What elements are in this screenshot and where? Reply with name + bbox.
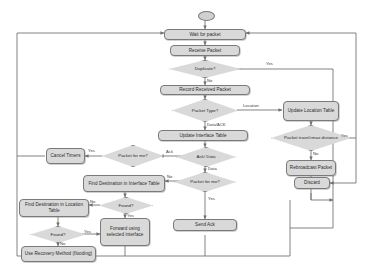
node-discard[interactable]: Discard bbox=[294, 177, 330, 189]
flowchart-canvas: Wait for packet Receive Packet Record Re… bbox=[0, 0, 372, 275]
edge-label-for-me-2-yes: Yes bbox=[208, 196, 215, 201]
decision-duplicate-label: Duplicate? bbox=[169, 60, 241, 78]
decision-packet-for-me-1[interactable]: Packet for me? bbox=[102, 145, 164, 167]
node-update-location-table[interactable]: Update Location Table bbox=[283, 101, 339, 121]
node-find-destination-interface-table[interactable]: Find Destination in Interface Table bbox=[83, 175, 165, 192]
edge-label-for-me-2-no: No bbox=[167, 174, 172, 179]
decision-packet-for-me-2-label: Packet for me? bbox=[174, 172, 236, 192]
edge-label-duplicate-no: No bbox=[207, 78, 212, 83]
decision-packet-for-me-1-label: Packet for me? bbox=[102, 145, 164, 167]
decision-duplicate[interactable]: Duplicate? bbox=[169, 60, 241, 78]
edge-label-duplicate-yes: Yes bbox=[266, 61, 273, 66]
decision-found-2-label: Found? bbox=[30, 226, 86, 243]
edge-label-type-data-ack: Data/ACK bbox=[207, 122, 226, 127]
decision-found-1-label: Found? bbox=[99, 197, 153, 214]
node-find-destination-location-table[interactable]: Find Destination in Location Table bbox=[19, 199, 89, 217]
decision-found-1[interactable]: Found? bbox=[99, 197, 153, 214]
edge-label-ack: Ack bbox=[166, 149, 173, 154]
edge-label-travel-yes: Yes bbox=[341, 133, 348, 138]
node-use-recovery-method[interactable]: Use Recovery Method (flooding) bbox=[21, 246, 96, 262]
decision-packet-travel-max-distance[interactable]: Packet travel>max distance bbox=[271, 125, 351, 151]
edge-label-found-1-yes: Yes bbox=[127, 213, 134, 218]
decision-packet-for-me-2[interactable]: Packet for me? bbox=[174, 172, 236, 192]
edge-label-found-2-yes: Yes bbox=[84, 229, 91, 234]
decision-ack-data[interactable]: Ack/ Data bbox=[176, 147, 236, 167]
decision-found-2[interactable]: Found? bbox=[30, 226, 86, 243]
decision-ack-data-label: Ack/ Data bbox=[176, 147, 236, 167]
node-update-interface-table[interactable]: Update Interface Table bbox=[158, 130, 248, 141]
edge-label-data: Data bbox=[208, 166, 217, 171]
node-cancel-timers[interactable]: Cancel Timers bbox=[46, 148, 85, 164]
edge-label-travel-no: No bbox=[313, 151, 318, 156]
decision-packet-type-label: Packet Type? bbox=[172, 99, 238, 122]
node-send-ack[interactable]: Send Ack bbox=[173, 219, 237, 231]
decision-packet-type[interactable]: Packet Type? bbox=[172, 99, 238, 122]
edge-label-type-location: Location bbox=[243, 103, 259, 108]
node-wait-for-packet[interactable]: Wait for packet bbox=[164, 29, 246, 40]
edge-label-for-me-1-yes: Yes bbox=[88, 148, 95, 153]
edge-label-found-1-no: No bbox=[90, 199, 95, 204]
decision-packet-travel-label: Packet travel>max distance bbox=[271, 125, 351, 151]
edge-label-found-2-no: No bbox=[60, 241, 65, 246]
node-forward-using-selected-interface[interactable]: Forward using selected interface bbox=[100, 218, 150, 246]
node-rebroadcast-packet[interactable]: Rebroadcast Packet bbox=[286, 160, 336, 176]
node-record-received-packet[interactable]: Record Received Packet bbox=[160, 85, 250, 95]
start-terminator bbox=[198, 11, 215, 21]
node-receive-packet[interactable]: Receive Packet bbox=[170, 45, 240, 56]
